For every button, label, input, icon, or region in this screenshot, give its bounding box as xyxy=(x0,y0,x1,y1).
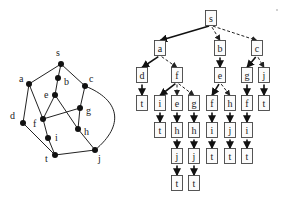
graph-node-h xyxy=(75,126,81,132)
tree-node-f: f xyxy=(172,68,183,83)
tree-node-label: t xyxy=(159,125,162,136)
tree-edge-solid xyxy=(160,84,175,96)
tree-edge-dashed xyxy=(213,26,257,40)
corner-mark xyxy=(276,9,278,11)
tree-node-s: s xyxy=(206,11,217,26)
tree-node-label: t xyxy=(176,178,179,189)
graph-node-d xyxy=(20,120,26,126)
graph-node-label: a xyxy=(19,73,24,84)
tree-edge-solid xyxy=(212,84,219,95)
tree-node-label: g xyxy=(245,70,250,81)
graph-node-e xyxy=(52,92,58,98)
graph-node-label: i xyxy=(55,132,58,143)
tree-edge-solid xyxy=(160,26,209,40)
graph-node-label: b xyxy=(64,76,69,87)
tree-node-label: j xyxy=(262,70,266,81)
tree-node-g: g xyxy=(189,96,200,111)
tree-node-e: e xyxy=(172,96,183,111)
graph-node-b xyxy=(55,75,61,81)
tree-edge-dashed xyxy=(258,57,264,67)
tree-node-i: i xyxy=(242,123,253,138)
tree-node-label: j xyxy=(192,151,196,162)
tree-node-t: t xyxy=(225,149,236,164)
tree-node-a: a xyxy=(155,41,166,56)
graph-node-c xyxy=(82,83,88,89)
graph-edge-t-j xyxy=(55,150,95,155)
tree-node-h: h xyxy=(172,123,183,138)
tree-node-label: s xyxy=(209,13,213,24)
tree-node-t: t xyxy=(172,176,183,191)
tree-node-label: e xyxy=(175,98,180,109)
tree-node-b: b xyxy=(215,41,226,56)
graph-edge-c-j xyxy=(85,86,115,150)
tree-node-t: t xyxy=(155,123,166,138)
graph-edge-s-a xyxy=(29,64,61,84)
graph-edge-a-f xyxy=(29,84,43,119)
tree-edge-dashed xyxy=(179,84,194,96)
tree-node-label: t xyxy=(193,178,196,189)
tree-node-t: t xyxy=(137,96,148,111)
graph-node-i xyxy=(45,135,51,141)
graph-node-label: g xyxy=(86,105,91,116)
graph-node-label: s xyxy=(56,47,60,58)
graph-node-label: e xyxy=(44,89,49,100)
tree-node-label: a xyxy=(158,43,163,54)
tree-node-g: g xyxy=(242,68,253,83)
tree-node-label: h xyxy=(175,125,180,136)
graph-node-f xyxy=(40,116,46,122)
tree-node-label: j xyxy=(175,151,179,162)
tree-node-t: t xyxy=(189,176,200,191)
tree-node-label: c xyxy=(255,43,260,54)
graph-node-label: j xyxy=(97,153,101,164)
graph-edge-g-h xyxy=(78,108,80,129)
tree-node-j: j xyxy=(189,149,200,164)
tree-node-label: e xyxy=(218,70,223,81)
tree-node-j: j xyxy=(225,123,236,138)
tree-node-t: t xyxy=(207,149,218,164)
tree-node-label: g xyxy=(192,98,197,109)
tree-node-f: f xyxy=(242,96,253,111)
tree-node-label: d xyxy=(140,70,145,81)
tree-node-c: c xyxy=(252,41,263,56)
tree-node-label: t xyxy=(229,151,232,162)
graph-nodes: sabcegdfhitj xyxy=(10,47,101,164)
tree-node-label: h xyxy=(192,125,197,136)
tree-node-t: t xyxy=(259,96,270,111)
diagram-canvas: sabcegdfhitj sabcdfegjtiegfhftthhijijjtt… xyxy=(0,0,283,216)
graph-node-label: h xyxy=(84,126,89,137)
tree-node-j: j xyxy=(259,68,270,83)
tree-node-label: b xyxy=(218,43,223,54)
tree-node-label: j xyxy=(228,125,232,136)
graph-edge-a-d xyxy=(23,84,29,123)
tree-node-label: t xyxy=(141,98,144,109)
graph-edge-c-g xyxy=(80,86,85,108)
tree-node-h: h xyxy=(225,96,236,111)
tree-node-i: i xyxy=(155,96,166,111)
tree-node-label: h xyxy=(228,98,233,109)
tree-edge-dashed xyxy=(212,27,220,40)
tree-edge-dashed xyxy=(162,57,177,68)
tree-edge-solid xyxy=(142,57,158,68)
tree-node-e: e xyxy=(215,68,226,83)
tree-nodes: sabcdfegjtiegfhftthhijijjttttt xyxy=(137,11,270,191)
tree-node-label: t xyxy=(246,151,249,162)
tree-edge-dashed xyxy=(221,84,230,95)
tree-node-f: f xyxy=(207,96,218,111)
graph-node-t xyxy=(52,152,58,158)
tree-node-j: j xyxy=(172,149,183,164)
tree-node-d: d xyxy=(137,68,148,83)
graph-edge-f-g xyxy=(43,108,80,119)
graph-node-label: t xyxy=(45,153,48,164)
graph-node-label: f xyxy=(33,118,37,129)
graph-node-label: c xyxy=(89,73,94,84)
graph-node-g xyxy=(77,105,83,111)
tree-node-h: h xyxy=(189,123,200,138)
tree-node-label: i xyxy=(246,125,249,136)
tree-edge-solid xyxy=(247,57,256,67)
graph-node-s xyxy=(58,61,64,67)
tree-node-t: t xyxy=(242,149,253,164)
tree-node-label: t xyxy=(211,151,214,162)
tree-node-i: i xyxy=(207,123,218,138)
tree-node-label: t xyxy=(263,98,266,109)
graph-node-label: d xyxy=(10,110,15,121)
